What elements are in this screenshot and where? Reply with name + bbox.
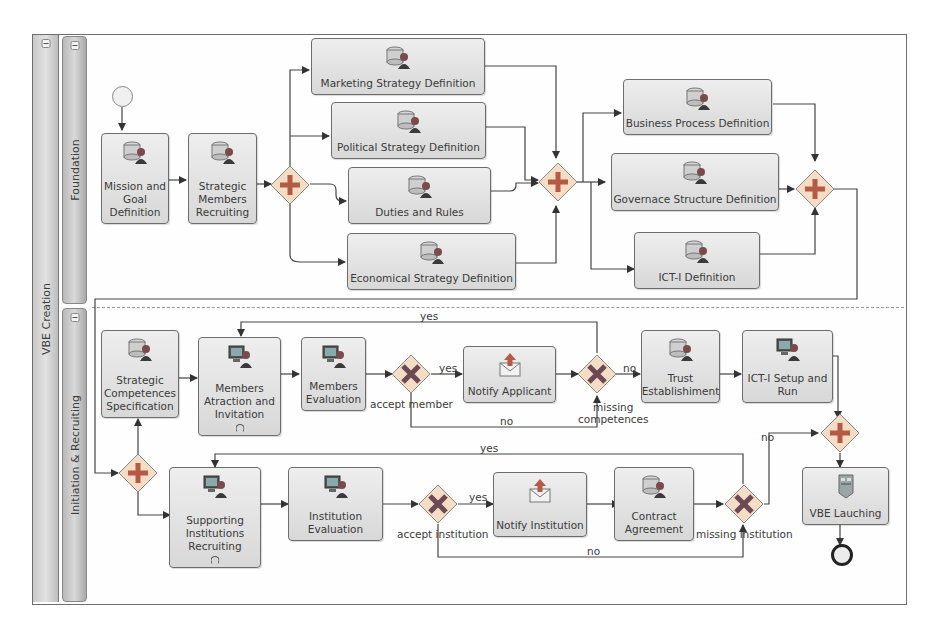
end-event[interactable] bbox=[831, 544, 853, 566]
database-person-icon bbox=[685, 85, 711, 111]
database-person-icon bbox=[127, 336, 153, 362]
task-contract-agreement[interactable]: ContractAgreement bbox=[614, 467, 694, 541]
bpmn-canvas: VBE Creation Foundation Initiation & Rec… bbox=[0, 0, 939, 628]
task-label: VBE Lauching bbox=[810, 507, 882, 520]
task-label: Governace Structure Definition bbox=[613, 193, 776, 206]
database-person-icon bbox=[122, 139, 148, 165]
database-person-icon bbox=[668, 336, 694, 362]
task-ict-i-definition[interactable]: ICT-I Definition bbox=[634, 232, 760, 289]
envelope-send-icon bbox=[497, 352, 523, 378]
task-label: MembersAtraction andInvitation bbox=[204, 382, 275, 421]
task-label: TrustEstablishiment bbox=[642, 372, 720, 398]
database-person-icon bbox=[682, 159, 708, 185]
database-person-icon bbox=[419, 239, 445, 265]
gateway-label-accept-institution: accept institution bbox=[397, 528, 489, 540]
task-label: Economical Strategy Definition bbox=[350, 272, 513, 285]
database-person-icon bbox=[641, 473, 667, 499]
flow-label-no: no bbox=[623, 362, 636, 374]
task-label: ContractAgreement bbox=[625, 510, 683, 536]
exclusive-gateway-accept-member[interactable] bbox=[391, 354, 431, 394]
flow-label-yes: yes bbox=[420, 310, 438, 322]
task-label: StrategicMembersRecruiting bbox=[196, 180, 249, 219]
parallel-gateway-final-join[interactable] bbox=[820, 413, 860, 453]
gateway-label-missing-competences: missingcompetences bbox=[578, 401, 649, 425]
loop-icon bbox=[235, 424, 244, 433]
computer-person-icon bbox=[202, 473, 228, 499]
task-label: ICT-I Setup andRun bbox=[748, 372, 828, 398]
task-label: Mission andGoalDefinition bbox=[104, 180, 166, 219]
task-members-attraction-invitation[interactable]: MembersAtraction andInvitation bbox=[198, 337, 281, 436]
task-duties-and-rules[interactable]: Duties and Rules bbox=[348, 167, 491, 224]
task-mission-goal-definition[interactable]: Mission andGoalDefinition bbox=[101, 133, 169, 224]
task-notify-applicant[interactable]: Notify Applicant bbox=[463, 346, 556, 403]
task-business-process-definition[interactable]: Business Process Definition bbox=[623, 79, 772, 135]
task-marketing-strategy-definition[interactable]: Marketing Strategy Definition bbox=[311, 38, 485, 95]
database-person-icon bbox=[210, 139, 236, 165]
database-person-icon bbox=[385, 44, 411, 70]
task-economical-strategy-definition[interactable]: Economical Strategy Definition bbox=[347, 233, 516, 290]
task-label: Notify Institution bbox=[496, 519, 584, 532]
task-label: InstitutionEvaluation bbox=[308, 510, 363, 536]
task-label: StrategicCompetencesSpecification bbox=[104, 374, 176, 413]
server-icon bbox=[833, 473, 859, 499]
parallel-gateway-split[interactable] bbox=[270, 165, 310, 205]
gateway-label-missing-institution: missing institution bbox=[696, 528, 793, 540]
task-label: ICT-I Definition bbox=[659, 271, 736, 284]
task-strategic-competences-specification[interactable]: StrategicCompetencesSpecification bbox=[101, 330, 179, 418]
task-label: Political Strategy Definition bbox=[337, 141, 480, 154]
task-members-evaluation[interactable]: MembersEvaluation bbox=[301, 337, 366, 411]
task-label: Duties and Rules bbox=[375, 206, 463, 219]
task-institution-evaluation[interactable]: InstitutionEvaluation bbox=[288, 467, 383, 541]
task-supporting-institutions-recruiting[interactable]: SupportingInstitutionsRecruiting bbox=[169, 467, 261, 568]
computer-person-icon bbox=[323, 473, 349, 499]
exclusive-gateway-missing-institution[interactable] bbox=[724, 484, 764, 524]
exclusive-gateway-accept-institution[interactable] bbox=[418, 484, 458, 524]
task-political-strategy-definition[interactable]: Political Strategy Definition bbox=[331, 102, 486, 159]
task-label: Notify Applicant bbox=[468, 385, 552, 398]
gateway-label-accept-member: accept member bbox=[370, 398, 453, 410]
computer-person-icon bbox=[321, 343, 347, 369]
flow-label-yes: yes bbox=[469, 491, 487, 503]
task-vbe-launching[interactable]: VBE Lauching bbox=[802, 467, 889, 525]
task-governance-structure-definition[interactable]: Governace Structure Definition bbox=[611, 153, 779, 211]
flow-label-yes: yes bbox=[480, 442, 498, 454]
task-label: Business Process Definition bbox=[626, 117, 770, 130]
loop-icon bbox=[211, 556, 220, 565]
flow-label-no: no bbox=[500, 415, 513, 427]
parallel-gateway-join-2[interactable] bbox=[795, 169, 835, 209]
parallel-gateway-split-recruiting[interactable] bbox=[118, 453, 158, 493]
database-person-icon bbox=[407, 173, 433, 199]
task-label: Marketing Strategy Definition bbox=[321, 77, 476, 90]
database-person-icon bbox=[396, 108, 422, 134]
flow-label-no: no bbox=[587, 545, 600, 557]
exclusive-gateway-missing-competences[interactable] bbox=[577, 354, 617, 394]
flow-label-no: no bbox=[761, 431, 774, 443]
task-label: SupportingInstitutionsRecruiting bbox=[186, 514, 245, 553]
database-person-icon bbox=[684, 238, 710, 264]
envelope-send-icon bbox=[527, 478, 553, 504]
flow-label-yes: yes bbox=[439, 362, 457, 374]
task-notify-institution[interactable]: Notify Institution bbox=[493, 472, 587, 537]
task-ict-i-setup-and-run[interactable]: ICT-I Setup andRun bbox=[742, 330, 833, 403]
computer-person-icon bbox=[775, 336, 801, 362]
computer-person-icon bbox=[227, 343, 253, 369]
parallel-gateway-join[interactable] bbox=[538, 162, 578, 202]
start-event[interactable] bbox=[112, 86, 133, 107]
task-strategic-members-recruiting[interactable]: StrategicMembersRecruiting bbox=[188, 133, 257, 224]
task-label: MembersEvaluation bbox=[306, 380, 361, 406]
task-trust-establishment[interactable]: TrustEstablishiment bbox=[641, 330, 720, 403]
